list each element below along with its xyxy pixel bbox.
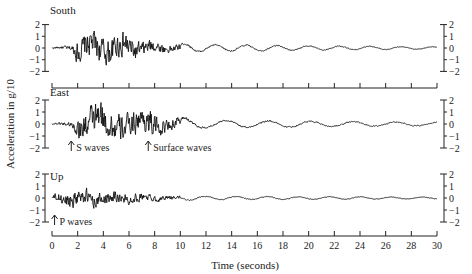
x-tick-label: 20 [304,240,314,251]
x-tick-label: 24 [355,240,365,251]
panel-title: Up [50,170,64,182]
x-tick-label: 14 [227,240,237,251]
annotation-p-waves: P waves [52,215,93,227]
left-y-axis [45,100,49,148]
annotation-label: P waves [60,216,93,227]
y-tick-label-right: −1 [449,54,460,65]
y-tick-label-right: 2 [449,19,454,30]
x-axis-label: Time (seconds) [211,259,279,272]
x-tick-label: 6 [127,240,132,251]
x-tick-label: 18 [278,240,288,251]
y-tick-label: 0 [35,193,40,204]
y-tick-label-right: 2 [449,169,454,180]
y-tick-label-right: 0 [449,43,454,54]
arrow-up-icon [68,141,74,151]
x-tick-label: 28 [406,240,416,251]
x-tick-label: 30 [432,240,442,251]
x-tick-label: 10 [175,240,185,251]
y-tick-label-right: 0 [449,193,454,204]
x-tick-label: 16 [252,240,262,251]
arrow-up-icon [52,215,58,225]
panel-south: South221100−1−1−2−2 [29,4,459,88]
x-tick-label: 12 [201,240,211,251]
panel-title: East [50,86,69,98]
y-tick-label: 2 [35,19,40,30]
right-y-axis [440,174,444,222]
y-tick-label-right: 1 [449,31,454,42]
x-tick-label: 8 [152,240,157,251]
y-tick-label: −2 [29,66,40,77]
annotation-label: S waves [76,142,109,153]
y-axis-label: Acceleration in g/10 [4,79,16,169]
panel-up: Up221100−1−1−2−2 [29,169,459,228]
y-tick-label-right: −1 [449,205,460,216]
y-tick-label: −1 [29,205,40,216]
trace-east [52,103,437,140]
x-tick-label: 2 [75,240,80,251]
y-tick-label-right: 0 [449,119,454,130]
x-tick-label: 4 [101,240,106,251]
x-tick-label: 26 [381,240,391,251]
y-tick-label: 0 [35,43,40,54]
y-tick-label: −2 [29,143,40,154]
y-tick-label-right: −2 [449,217,460,228]
y-tick-label: 1 [35,181,40,192]
panels: South221100−1−1−2−2East221100−1−1−2−2Up2… [29,4,459,228]
panel-title: South [50,4,76,16]
x-tick-label: 0 [50,240,55,251]
right-y-axis [440,100,444,148]
y-tick-label-right: −2 [449,143,460,154]
annotation-surface-waves: Surface waves [145,141,211,153]
y-tick-label: 2 [35,169,40,180]
y-tick-label: 1 [35,107,40,118]
x-axis: 024681012141618202224262830 [50,231,443,251]
y-tick-label: −1 [29,131,40,142]
trace-up [52,188,437,209]
arrow-up-icon [145,141,151,151]
left-y-axis [45,174,49,222]
y-tick-label: −2 [29,217,40,228]
y-tick-label-right: −2 [449,66,460,77]
annotation-label: Surface waves [153,142,211,153]
y-tick-label: 0 [35,119,40,130]
seismogram-chart: Acceleration in g/10 South221100−1−1−2−2… [0,0,472,274]
y-tick-label-right: 2 [449,95,454,106]
y-tick-label-right: 1 [449,107,454,118]
y-tick-label: −1 [29,54,40,65]
y-tick-label: 1 [35,31,40,42]
y-tick-label: 2 [35,95,40,106]
y-tick-label-right: 1 [449,181,454,192]
annotation-s-waves: S waves [68,141,109,153]
trace-south [52,31,437,65]
y-tick-label-right: −1 [449,131,460,142]
x-tick-label: 22 [329,240,339,251]
left-y-axis [45,25,49,72]
right-y-axis [440,25,444,72]
